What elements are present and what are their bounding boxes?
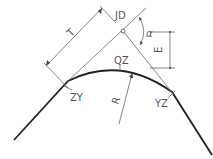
road-alignment: [14, 70, 212, 155]
t-label: T: [64, 26, 77, 39]
t-arrow-2: [98, 8, 102, 14]
yz-label: YZ: [154, 98, 168, 109]
qz-label: QZ: [114, 55, 129, 66]
jd-label: JD: [114, 10, 126, 21]
t-extension-2: [100, 6, 116, 23]
e-label: E: [153, 47, 164, 53]
e-tick-bottom: [169, 67, 171, 69]
curve-diagram: JD QZ ZY YZ T E R α: [0, 0, 213, 159]
tangent-line-2: [123, 31, 174, 95]
e-tick-top: [169, 31, 171, 33]
alpha-label: α: [146, 28, 153, 39]
t-extension-1: [44, 63, 68, 88]
zy-label: ZY: [70, 92, 84, 103]
alpha-arc: [139, 17, 144, 45]
zy-tick: [64, 86, 72, 90]
t-arrow-1: [46, 60, 50, 66]
jd-point: [121, 29, 125, 33]
r-label: R: [110, 95, 123, 105]
